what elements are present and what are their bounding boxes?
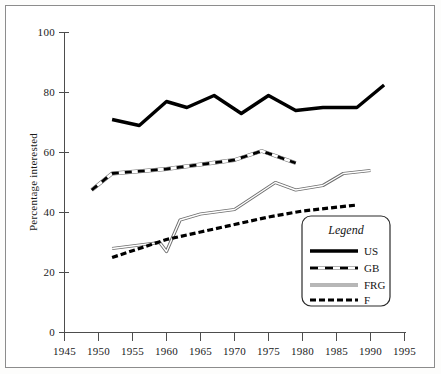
y-tick-label: 20 (43, 266, 55, 278)
y-tick-label: 40 (43, 206, 55, 218)
series-line-gb-fill (92, 151, 296, 190)
y-tick-label: 60 (43, 146, 55, 158)
x-tick-label: 1945 (53, 345, 76, 357)
chart-page: 100 80 60 40 20 0 Percentage interested … (0, 0, 441, 374)
y-axis-tick-labels: 100 80 60 40 20 0 (38, 26, 56, 338)
x-tick-label: 1975 (257, 345, 280, 357)
legend-title: Legend (327, 223, 364, 237)
x-axis-ticks (65, 333, 405, 342)
x-tick-label: 1980 (291, 345, 314, 357)
x-tick-label: 1990 (359, 345, 382, 357)
x-tick-label: 1970 (223, 345, 246, 357)
x-tick-label: 1960 (155, 345, 178, 357)
x-tick-label: 1955 (121, 345, 144, 357)
x-tick-label: 1985 (325, 345, 348, 357)
legend-label-us: US (364, 245, 378, 257)
legend-label-gb: GB (364, 262, 379, 274)
legend[interactable]: Legend US GB FRG F (302, 216, 390, 306)
y-tick-label: 0 (49, 326, 55, 338)
series-line-gb-outline (92, 151, 296, 190)
y-tick-label: 80 (43, 86, 55, 98)
legend-label-f: F (364, 294, 370, 306)
legend-label-frg: FRG (364, 279, 385, 291)
x-tick-label: 1950 (87, 345, 110, 357)
y-tick-label: 100 (38, 26, 56, 38)
series-line-us (112, 85, 384, 126)
line-chart: 100 80 60 40 20 0 Percentage interested … (0, 0, 441, 374)
series-line-gb (92, 151, 296, 190)
x-tick-label: 1995 (393, 345, 416, 357)
x-tick-label: 1965 (189, 345, 212, 357)
y-axis-title: Percentage interested (27, 133, 39, 231)
x-axis-tick-labels: 1945 1950 1955 1960 1965 1970 1975 1980 … (53, 345, 416, 357)
